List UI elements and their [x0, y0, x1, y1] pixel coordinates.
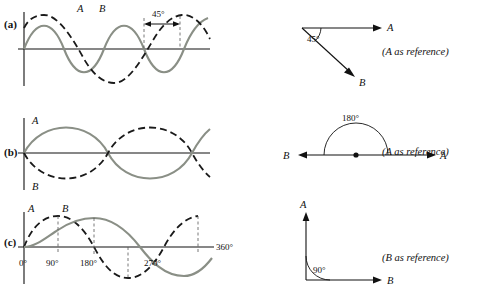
waveform-tick-0-c: 0° — [19, 258, 28, 268]
row-label-a: (a) — [4, 18, 17, 30]
row-label-b: (b) — [4, 146, 17, 158]
waveform-tick-90-c: 90° — [46, 258, 59, 268]
phasor-vector-B-head-b — [298, 152, 307, 159]
phasor-label-B-c: B — [387, 275, 394, 286]
row-label-c: (c) — [4, 236, 16, 248]
figure-row-b: (b) A B 180° A B ( — [0, 100, 493, 200]
figure-row-a: (a) A B 45° — [0, 0, 493, 100]
waveform-label-A-c: A — [27, 203, 35, 214]
phasor-angle-label-a: 45° — [307, 34, 320, 44]
phasor-label-A-c: A — [299, 199, 307, 210]
waveform-label-A-a: A — [76, 3, 84, 14]
phasor-vector-B-head-c — [373, 277, 382, 284]
figure-row-c: (c) A B 0° 90° 180° 270° 360° — [0, 200, 493, 296]
waveform-tick-270-c: 270° — [144, 258, 162, 268]
phase-arrow-head-right-a — [173, 21, 180, 26]
phasor-vector-B-head-a — [344, 68, 355, 78]
phasor-vector-A-head-c — [303, 212, 310, 221]
phasor-angle-label-b: 180° — [342, 113, 360, 123]
waveform-panel-c: A B 0° 90° 180° 270° 360° — [18, 200, 248, 292]
phasor-svg-c: 90° A B — [280, 202, 410, 292]
waveform-svg-a: A B 45° — [18, 4, 228, 94]
phasor-angle-arc-b — [324, 123, 388, 155]
waveform-tick-180-c: 180° — [80, 258, 98, 268]
phasor-label-B-a: B — [359, 77, 366, 88]
waveform-label-B-c: B — [62, 203, 69, 214]
phasor-angle-label-c: 90° — [313, 265, 326, 275]
waveform-panel-a: A B 45° — [18, 4, 228, 94]
phase-arrow-head-left-a — [144, 21, 151, 26]
waveform-label-B-a: B — [99, 3, 106, 14]
phasor-label-A-a: A — [386, 22, 394, 33]
waveform-label-B-b: B — [32, 181, 39, 192]
reference-note-b: (A as reference) — [382, 146, 449, 157]
waveform-panel-b: A B — [18, 110, 228, 196]
phasor-panel-c: 90° A B — [280, 202, 410, 292]
phasor-label-B-b: B — [283, 150, 290, 161]
waveform-label-A-b: A — [31, 115, 39, 126]
phasor-vector-A-head-a — [373, 25, 382, 32]
waveform-svg-b: A B — [18, 110, 228, 196]
reference-note-a: (A as reference) — [382, 46, 449, 57]
reference-note-c: (B as reference) — [382, 252, 449, 263]
waveform-svg-c: A B 0° 90° 180° 270° 360° — [18, 200, 248, 292]
waveform-tick-360-c: 360° — [216, 242, 234, 252]
waveform-phase-annotation-a: 45° — [152, 9, 165, 19]
